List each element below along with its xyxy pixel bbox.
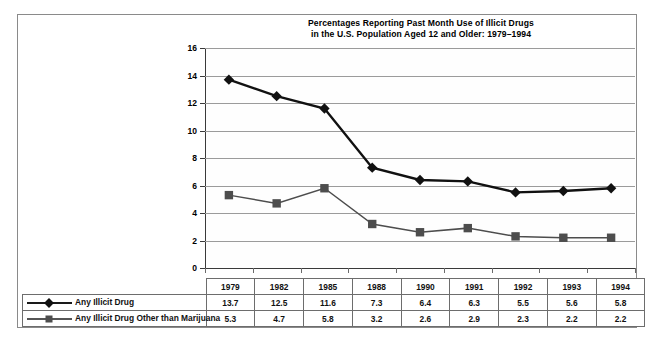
y-axis-label-8: 8 xyxy=(192,153,197,163)
table-row: Any Illicit Drug Other than Marijuana5.3… xyxy=(23,311,645,327)
table-value-cell: 4.7 xyxy=(255,311,304,327)
x-tick-6 xyxy=(492,268,493,273)
table-value-cell: 2.9 xyxy=(450,311,499,327)
x-tick-3 xyxy=(348,268,349,273)
x-tick-7 xyxy=(539,268,540,273)
table-header-year-1979: 1979 xyxy=(206,279,255,295)
table-header-year-1985: 1985 xyxy=(304,279,353,295)
table-header-year-1982: 1982 xyxy=(255,279,304,295)
plot-area: 0246810121416 xyxy=(205,48,635,268)
y-axis-label-16: 16 xyxy=(188,43,197,53)
data-point-diamond xyxy=(558,186,568,196)
table-value-cell: 5.8 xyxy=(304,311,353,327)
table-value-cell: 5.8 xyxy=(596,295,645,311)
table-value-cell: 5.6 xyxy=(547,295,596,311)
table-value-cell: 2.2 xyxy=(547,311,596,327)
table-header-year-1994: 1994 xyxy=(596,279,645,295)
table-header-year-1992: 1992 xyxy=(499,279,548,295)
x-tick-2 xyxy=(301,268,302,273)
table-header-blank-cell xyxy=(23,279,207,295)
table-value-cell: 2.6 xyxy=(401,311,450,327)
data-point-diamond xyxy=(415,175,425,185)
x-tick-5 xyxy=(444,268,445,273)
table-header-year-1990: 1990 xyxy=(401,279,450,295)
data-point-square xyxy=(320,184,328,192)
legend-row-1: Any Illicit Drug xyxy=(23,295,207,311)
y-axis-label-10: 10 xyxy=(188,126,197,136)
chart-title-line-2: in the U.S. Population Aged 12 and Older… xyxy=(205,29,637,40)
chart-screenshot: Percentages Reporting Past Month Use of … xyxy=(0,0,655,344)
table-value-cell: 13.7 xyxy=(206,295,255,311)
table-row: Any Illicit Drug13.712.511.67.36.46.35.5… xyxy=(23,295,645,311)
table-header-year-1993: 1993 xyxy=(547,279,596,295)
table-value-cell: 2.3 xyxy=(499,311,548,327)
table-value-cell: 12.5 xyxy=(255,295,304,311)
data-point-diamond xyxy=(606,183,616,193)
table-header-row: 197919821985198819901991199219931994 xyxy=(23,279,645,295)
data-point-square xyxy=(272,199,280,207)
y-axis-label-4: 4 xyxy=(192,208,197,218)
data-point-square xyxy=(607,234,615,242)
data-point-square xyxy=(559,234,567,242)
gridline-0 xyxy=(205,268,635,269)
legend-label: Any Illicit Drug Other than Marijuana xyxy=(75,311,220,326)
legend-row-2: Any Illicit Drug Other than Marijuana xyxy=(23,311,207,327)
table-value-cell: 6.4 xyxy=(401,295,450,311)
data-table: 197919821985198819901991199219931994Any … xyxy=(22,278,645,327)
chart-title-line-1: Percentages Reporting Past Month Use of … xyxy=(205,18,637,29)
data-point-square xyxy=(464,224,472,232)
diamond-marker-icon xyxy=(23,295,75,310)
table-header-year-1988: 1988 xyxy=(352,279,401,295)
table-value-cell: 5.5 xyxy=(499,295,548,311)
table-value-cell: 11.6 xyxy=(304,295,353,311)
x-tick-1 xyxy=(253,268,254,273)
data-table-wrapper: 197919821985198819901991199219931994Any … xyxy=(22,278,635,326)
data-point-diamond xyxy=(510,187,520,197)
x-tick-9 xyxy=(635,268,636,273)
y-axis-label-2: 2 xyxy=(192,236,197,246)
table-value-cell: 6.3 xyxy=(450,295,499,311)
series-layer xyxy=(205,48,635,268)
data-point-diamond xyxy=(271,91,281,101)
data-point-square xyxy=(368,220,376,228)
data-point-diamond xyxy=(463,176,473,186)
data-point-diamond xyxy=(224,74,234,84)
table-value-cell: 2.2 xyxy=(596,311,645,327)
y-axis-label-6: 6 xyxy=(192,181,197,191)
x-tick-8 xyxy=(587,268,588,273)
table-header-year-1991: 1991 xyxy=(450,279,499,295)
square-marker-icon xyxy=(23,311,75,326)
y-axis-label-0: 0 xyxy=(192,263,197,273)
table-value-cell: 3.2 xyxy=(352,311,401,327)
y-axis-label-14: 14 xyxy=(188,71,197,81)
data-point-square xyxy=(511,232,519,240)
data-point-square xyxy=(416,228,424,236)
y-axis-label-12: 12 xyxy=(188,98,197,108)
legend-label: Any Illicit Drug xyxy=(75,295,134,310)
data-point-square xyxy=(225,191,233,199)
table-value-cell: 7.3 xyxy=(352,295,401,311)
x-tick-4 xyxy=(396,268,397,273)
x-tick-0 xyxy=(205,268,206,273)
chart-title: Percentages Reporting Past Month Use of … xyxy=(205,18,637,39)
